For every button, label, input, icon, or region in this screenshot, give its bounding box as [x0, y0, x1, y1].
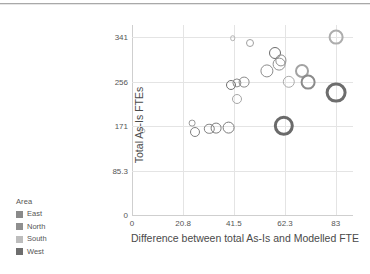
data-point[interactable]	[222, 121, 235, 134]
gridline-horizontal	[132, 171, 353, 172]
data-point[interactable]	[260, 64, 273, 77]
data-point[interactable]	[190, 127, 200, 137]
gridline-vertical	[234, 25, 235, 215]
x-tick-label: 83	[331, 219, 340, 228]
gridline-horizontal	[132, 126, 353, 127]
data-point[interactable]	[230, 35, 236, 41]
data-point[interactable]	[301, 74, 316, 89]
gridline-vertical	[336, 25, 337, 215]
x-axis-title: Difference between total As-Is and Model…	[120, 232, 370, 244]
gridline-vertical	[183, 25, 184, 215]
x-axis-ticks: 020.841.562.383	[132, 219, 353, 231]
y-axis-title: Total As-Is FTEs	[133, 50, 145, 200]
data-point[interactable]	[325, 82, 346, 103]
x-tick-label: 20.8	[175, 219, 191, 228]
data-point[interactable]	[274, 116, 294, 136]
x-tick-label: 62.3	[277, 219, 293, 228]
y-tick-label: 0	[124, 211, 128, 220]
scatter-chart: 085.3171256341 020.841.562.383 Total As-…	[0, 0, 370, 274]
data-point[interactable]	[232, 94, 242, 104]
y-axis-title-wrap: Total As-Is FTEs	[104, 25, 122, 215]
x-tick-label: 0	[130, 219, 134, 228]
data-point[interactable]	[328, 30, 343, 45]
data-point[interactable]	[211, 123, 222, 134]
data-point[interactable]	[246, 39, 254, 47]
plot-area	[132, 25, 353, 215]
x-axis-line	[132, 215, 353, 216]
gridline-horizontal	[132, 37, 353, 38]
data-point[interactable]	[282, 76, 294, 88]
x-tick-label: 41.5	[226, 219, 242, 228]
chart-screenshot: Area EastNorthSouthWest 085.3171256341 0…	[0, 0, 370, 274]
data-point[interactable]	[189, 119, 196, 126]
data-point[interactable]	[239, 77, 250, 88]
